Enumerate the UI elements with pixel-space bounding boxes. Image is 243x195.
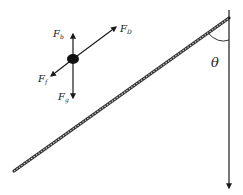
label-fb: Fb — [52, 28, 64, 40]
theta-label: θ — [211, 55, 219, 70]
diagram-canvas: θ Fb FD Ff Fg — [0, 0, 243, 195]
rope — [14, 18, 229, 171]
angle-arc — [208, 33, 229, 41]
body-dot — [67, 54, 79, 64]
force-arrow-fd — [73, 27, 116, 59]
label-fg: Fg — [57, 91, 69, 104]
label-fd: FD — [119, 23, 132, 35]
label-ff: Ff — [37, 73, 49, 86]
diagram-svg: θ Fb FD Ff Fg — [0, 0, 243, 195]
